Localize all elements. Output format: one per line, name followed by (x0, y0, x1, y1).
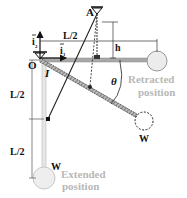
attach-point-extended (46, 117, 50, 121)
current-bar (40, 58, 153, 130)
label-i2-sub: 2 (35, 44, 38, 49)
label-i1-sub: 1 (63, 52, 66, 57)
label-retracted-2: position (138, 86, 175, 98)
label-dim-left-upper: L/2 (10, 89, 24, 100)
label-retracted-1: Retracted (128, 73, 174, 85)
label-theta: θ (111, 75, 117, 87)
dim-top (40, 39, 157, 52)
label-O: O (28, 59, 37, 71)
cable-A-diagonal (90, 14, 97, 86)
label-dim-left-lower: L/2 (10, 146, 24, 157)
label-weight-extended: W (51, 161, 61, 172)
pendulum-diagram: A O i 2 i 1 L/2 h L/2 L/2 θ I W W Retrac… (0, 0, 187, 198)
label-inertia: I (44, 67, 50, 79)
label-dim-top: L/2 (63, 30, 77, 41)
label-extended-1: Extended (61, 168, 106, 180)
label-weight-mid: W (139, 133, 149, 144)
label-extended-2: position (62, 180, 99, 192)
label-A: A (86, 6, 94, 18)
label-dim-h: h (115, 42, 121, 53)
